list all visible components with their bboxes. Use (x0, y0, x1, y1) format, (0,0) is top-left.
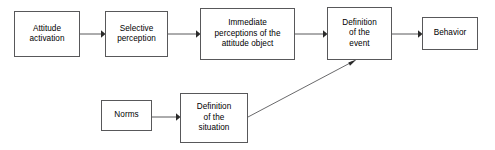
node-label: Attitude activation (29, 24, 64, 45)
edge-attitude-to-selective (80, 30, 106, 38)
node-label: Behavior (434, 28, 467, 38)
arrowhead-icon (348, 60, 356, 66)
node-selective-perception[interactable]: Selective perception (105, 11, 168, 57)
edge-event-to-behavior (392, 30, 423, 38)
node-label: Selective perception (117, 24, 156, 45)
edge-immediate-to-event (295, 30, 328, 38)
node-definition-of-the-event[interactable]: Definition of the event (327, 7, 392, 60)
edge-norms-to-situation (152, 113, 181, 121)
edge-selective-to-immediate (168, 30, 201, 38)
node-immediate-perceptions[interactable]: Immediate perceptions of the attitude ob… (200, 8, 295, 60)
node-label: Definition of the event (342, 18, 377, 49)
node-attitude-activation[interactable]: Attitude activation (14, 11, 80, 57)
node-label: Definition of the situation (197, 102, 232, 133)
node-label: Norms (114, 110, 138, 120)
flowchart-diagram: Attitude activation Selective perception… (0, 0, 495, 150)
edge-situation-to-event (248, 60, 357, 117)
node-norms[interactable]: Norms (101, 100, 152, 131)
node-label: Immediate perceptions of the attitude ob… (215, 18, 281, 49)
node-definition-of-the-situation[interactable]: Definition of the situation (180, 93, 248, 143)
node-behavior[interactable]: Behavior (422, 17, 478, 50)
